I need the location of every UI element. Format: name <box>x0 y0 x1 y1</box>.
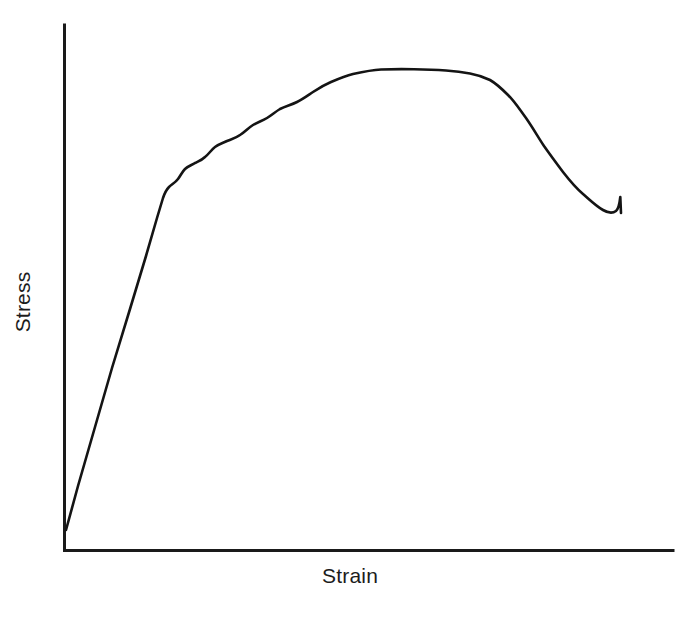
stress-strain-curve <box>66 69 621 530</box>
axis-spine <box>65 25 674 551</box>
plot-area <box>0 0 700 623</box>
x-axis-label: Strain <box>0 564 700 588</box>
stress-strain-figure: Strain Stress <box>0 0 700 623</box>
y-axis-label-container: Stress <box>0 0 60 623</box>
y-axis-label: Stress <box>11 271 35 332</box>
